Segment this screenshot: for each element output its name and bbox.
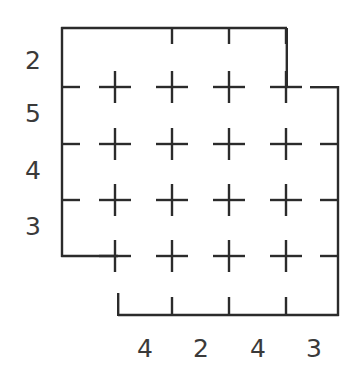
x-axis-label-1: 2	[193, 334, 209, 363]
cross-marker	[213, 240, 245, 272]
y-axis-label-1: 5	[25, 99, 41, 128]
figure-canvas: 2 5 4 3 4 2 4 3	[0, 0, 357, 385]
cross-marker	[270, 128, 302, 160]
cross-marker	[213, 128, 245, 160]
cross-marker	[270, 240, 302, 272]
y-axis-label-3: 3	[25, 212, 41, 241]
cross-marker	[99, 71, 131, 103]
cross-marker	[270, 71, 302, 103]
y-axis-label-0: 2	[25, 46, 41, 75]
y-axis-label-2: 4	[25, 156, 41, 185]
cross-marker	[213, 71, 245, 103]
cross-marker	[156, 128, 188, 160]
cross-marker	[99, 184, 131, 216]
cross-marker	[99, 240, 131, 272]
cross-marker	[270, 184, 302, 216]
y-axis-labels: 2 5 4 3	[25, 46, 41, 241]
x-axis-label-0: 4	[137, 334, 153, 363]
cross-marker-grid	[99, 71, 302, 272]
cross-marker	[213, 184, 245, 216]
x-axis-labels: 4 2 4 3	[137, 334, 322, 363]
cross-marker	[156, 184, 188, 216]
figure-root: 2 5 4 3 4 2 4 3	[0, 0, 357, 385]
x-axis-label-3: 3	[306, 334, 322, 363]
cross-marker	[156, 71, 188, 103]
back-rectangle	[61, 27, 287, 257]
x-axis-label-2: 4	[250, 334, 266, 363]
cross-marker	[99, 128, 131, 160]
cross-marker	[156, 240, 188, 272]
